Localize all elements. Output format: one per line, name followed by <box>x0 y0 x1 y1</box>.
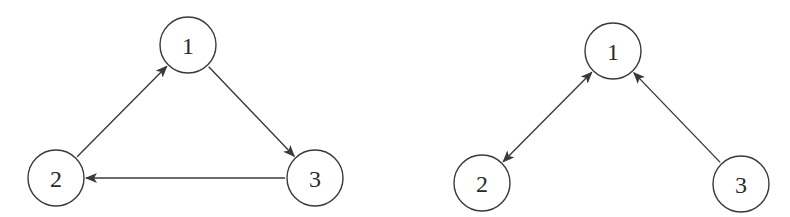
node-1: 1 <box>585 23 641 79</box>
node-3: 3 <box>287 150 343 206</box>
node-2: 2 <box>28 150 84 206</box>
right-graph: 123 <box>454 23 769 212</box>
edge-1-to-3-arrow <box>209 67 295 157</box>
edge-2-to-1-arrow <box>77 66 167 156</box>
diagram-canvas: 123 123 <box>0 0 790 217</box>
node-label: 1 <box>182 33 194 59</box>
node-label: 3 <box>309 166 321 192</box>
edge-3-to-1-arrow <box>634 73 720 163</box>
node-1: 1 <box>160 17 216 73</box>
left-graph: 123 <box>28 17 343 206</box>
node-label: 3 <box>735 172 747 198</box>
node-label: 2 <box>476 171 488 197</box>
node-label: 1 <box>607 39 619 65</box>
right-graph-nodes: 123 <box>454 23 769 212</box>
right-graph-edges <box>503 72 720 162</box>
node-2: 2 <box>454 155 510 211</box>
node-3: 3 <box>713 156 769 212</box>
node-label: 2 <box>50 166 62 192</box>
edge-1-to-2-bidirectional-arrow <box>503 72 592 161</box>
left-graph-edges <box>77 66 294 178</box>
